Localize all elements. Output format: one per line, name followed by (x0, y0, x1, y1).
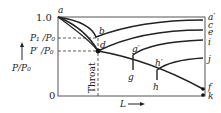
label-h: h (153, 82, 159, 92)
throat-label: Throat (87, 62, 97, 93)
y-tick-p1: P₁ /P₀ (29, 33, 56, 43)
label-g-prime: g′ (132, 44, 140, 54)
point-k (201, 93, 205, 97)
label-i: i (208, 37, 211, 47)
label-h-prime: h′ (155, 58, 163, 68)
x-arrow-head-icon (140, 102, 145, 106)
y-tick-1: 1.0 (36, 12, 52, 23)
label-b: b (99, 26, 105, 36)
point-f (201, 87, 205, 91)
label-k: k (208, 91, 213, 101)
y-arrow-head-icon (20, 42, 24, 47)
curve-g-gprime-i (133, 40, 203, 70)
y-axis-label: P/P₀ (11, 63, 31, 73)
label-a: a (58, 5, 63, 15)
label-g: g (128, 72, 134, 82)
label-e: e (208, 27, 213, 37)
x-axis-label: L (119, 99, 126, 109)
label-d: d (100, 40, 106, 50)
y-tick-pprime: P′ /P₀ (29, 46, 54, 56)
nozzle-pressure-diagram: 1.0 0 P₁ /P₀ P′ /P₀ P/P₀ L Throat a b d … (0, 0, 221, 113)
y-tick-0: 0 (49, 90, 55, 101)
label-j: j (206, 54, 211, 64)
curve-d-f (98, 51, 203, 89)
